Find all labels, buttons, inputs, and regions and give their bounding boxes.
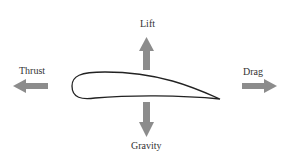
airfoil-outline	[72, 72, 220, 99]
lift-arrow-icon	[139, 37, 154, 70]
gravity-label: Gravity	[131, 140, 162, 151]
lift-label: Lift	[140, 18, 155, 29]
drag-arrow-icon	[242, 79, 277, 93]
drag-label: Drag	[243, 66, 263, 77]
gravity-arrow-icon	[139, 102, 154, 137]
thrust-arrow-icon	[13, 79, 48, 93]
thrust-label: Thrust	[19, 65, 45, 76]
